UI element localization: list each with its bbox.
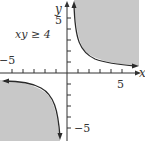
inequality-graph: y 5 xy ≥ 4 −5 x 5 −5 [0, 0, 145, 141]
shaded-region-q3 [0, 80, 60, 141]
y-axis-arrow-icon [65, 1, 70, 7]
shaded-region-q1 [74, 0, 139, 66]
x-tick-label-5: 5 [117, 78, 124, 91]
y-tick-label-5: 5 [55, 14, 62, 27]
x-axis-label: x [139, 66, 145, 80]
x-tick-label-neg5: −5 [0, 54, 15, 67]
inequality-annotation: xy ≥ 4 [15, 28, 51, 41]
y-tick-label-neg5: −5 [74, 122, 90, 135]
